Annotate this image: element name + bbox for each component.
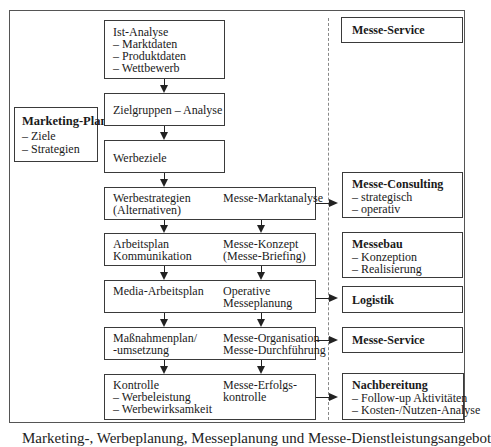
werbestrategien-label: (Alternativen) bbox=[113, 204, 181, 217]
logistik-title: Logistik bbox=[352, 294, 394, 307]
media-arbeitsplan-label: Media-Arbeitsplan bbox=[113, 285, 204, 298]
kontrolle-item: – Werbewirksamkeit bbox=[113, 403, 212, 416]
messe-service-top-title: Messe-Service bbox=[352, 24, 425, 37]
messe-consulting-box: Messe-Consulting – strategisch – operati… bbox=[342, 172, 463, 218]
messebau-item: – Realisierung bbox=[352, 263, 422, 276]
ist-analyse-item: – Wettbewerb bbox=[113, 62, 179, 75]
marketing-plan-box: Marketing-Plan – Ziele – Strategien bbox=[14, 107, 98, 162]
media-arbeitsplan-box: Media-Arbeitsplan Operative Messeplanung bbox=[104, 280, 316, 313]
separator-dashed-line bbox=[328, 18, 329, 420]
messe-konzept-label: (Messe-Briefing) bbox=[223, 250, 306, 263]
massnahmenplan-label: -umsetzung bbox=[113, 344, 169, 357]
arbeitsplan-label: Kommunikation bbox=[113, 250, 192, 263]
messe-service-top-box: Messe-Service bbox=[341, 17, 463, 43]
messebau-box: Messebau – Konzeption – Realisierung bbox=[342, 232, 463, 278]
marketing-plan-title: Marketing-Plan bbox=[22, 115, 107, 128]
messe-service-title: Messe-Service bbox=[352, 334, 425, 347]
messe-service-box: Messe-Service bbox=[342, 327, 463, 353]
zielgruppen-label: Zielgruppen – Analyse bbox=[113, 104, 222, 117]
marketing-plan-item: – Strategien bbox=[22, 143, 80, 156]
messe-marktanalyse-label: Messe-Marktanalyse bbox=[223, 192, 323, 205]
werbestrategien-box: Werbestrategien (Alternativen) Messe-Mar… bbox=[104, 187, 316, 220]
zielgruppen-box: Zielgruppen – Analyse bbox=[104, 93, 225, 126]
operative-messeplanung-label: Messeplanung bbox=[223, 297, 292, 310]
logistik-box: Logistik bbox=[342, 286, 463, 313]
nachbereitung-box: Nachbereitung – Follow-up Aktivitäten – … bbox=[342, 373, 464, 420]
kontrolle-box: Kontrolle – Werbeleistung – Werbewirksam… bbox=[104, 374, 316, 420]
arbeitsplan-box: Arbeitsplan Kommunikation Messe-Konzept … bbox=[104, 233, 316, 266]
figure-caption: Marketing-, Werbeplanung, Messeplanung u… bbox=[22, 430, 491, 447]
messe-consulting-item: – operativ bbox=[352, 203, 400, 216]
werbeziele-label: Werbeziele bbox=[113, 152, 167, 165]
ist-analyse-box: Ist-Analyse – Marktdaten – Produktdaten … bbox=[104, 20, 225, 79]
massnahmenplan-box: Maßnahmenplan/ -umsetzung Messe-Organisa… bbox=[104, 327, 316, 360]
nachbereitung-item: – Kosten-/Nutzen-Analyse bbox=[352, 404, 480, 417]
messe-erfolgskontrolle-label: kontrolle bbox=[223, 391, 266, 404]
werbeziele-box: Werbeziele bbox=[104, 140, 225, 173]
messe-organisation-label: Messe-Durchführung bbox=[223, 344, 326, 357]
